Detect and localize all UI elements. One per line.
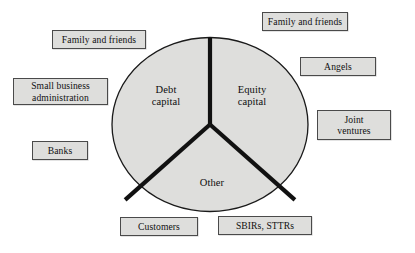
callout-banks[interactable]: Banks	[32, 141, 88, 160]
callout-joint-ventures-line2: ventures	[335, 125, 372, 137]
slice-label-equity-capital-line1: Equity	[222, 84, 282, 96]
callout-joint-ventures-line1: Joint	[342, 114, 365, 126]
callout-family-and-friends-equity[interactable]: Family and friends	[262, 12, 348, 31]
callout-customers[interactable]: Customers	[120, 217, 198, 236]
callout-joint-ventures[interactable]: Joint ventures	[317, 110, 391, 140]
callout-family-and-friends-debt-label: Family and friends	[60, 34, 138, 46]
callout-small-business-administration[interactable]: Small business administration	[13, 78, 108, 105]
callout-small-business-administration-line2: administration	[30, 92, 91, 104]
callout-customers-label: Customers	[136, 221, 182, 233]
slice-label-equity-capital-line2: capital	[222, 96, 282, 108]
callout-family-and-friends-equity-label: Family and friends	[266, 16, 344, 28]
callout-small-business-administration-line1: Small business	[29, 80, 92, 92]
slice-label-equity-capital: Equity capital	[222, 84, 282, 109]
callout-banks-label: Banks	[46, 145, 74, 157]
diagram-canvas: Debt capital Equity capital Other Family…	[0, 0, 415, 253]
slice-label-debt-capital-line2: capital	[138, 96, 194, 108]
callout-angels-label: Angels	[322, 61, 354, 73]
callout-family-and-friends-debt[interactable]: Family and friends	[52, 30, 146, 49]
callout-angels[interactable]: Angels	[300, 57, 376, 76]
slice-label-other-line1: Other	[184, 177, 240, 189]
callout-sbirs-sttrs[interactable]: SBIRs, STTRs	[218, 216, 312, 235]
slice-label-other: Other	[184, 177, 240, 189]
slice-label-debt-capital: Debt capital	[138, 84, 194, 109]
slice-label-debt-capital-line1: Debt	[138, 84, 194, 96]
callout-sbirs-sttrs-label: SBIRs, STTRs	[234, 220, 296, 232]
